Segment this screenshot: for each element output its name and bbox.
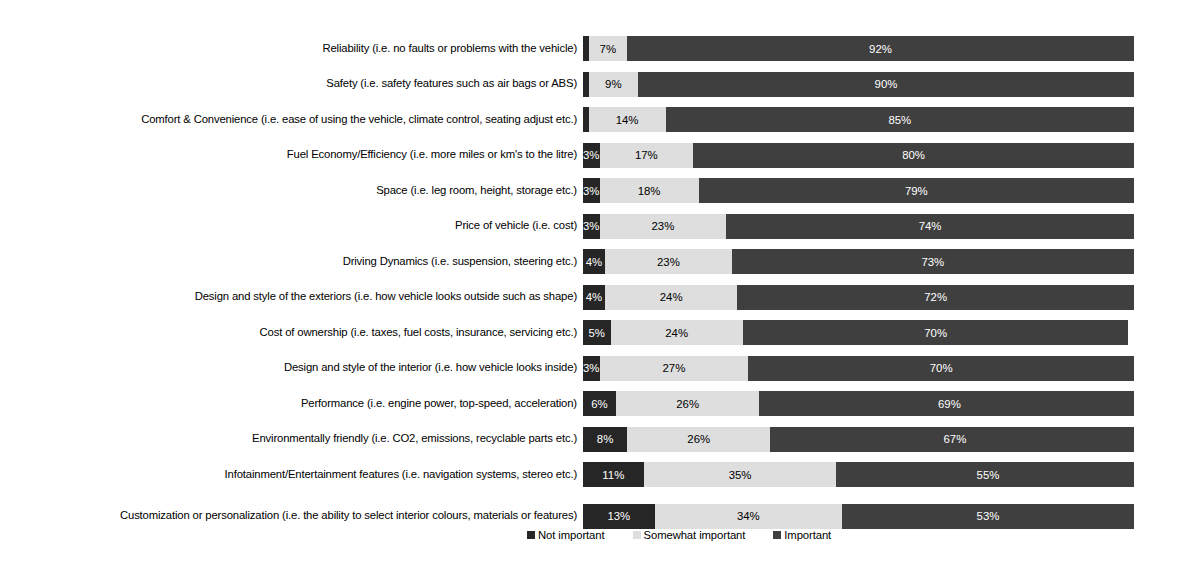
bar-segment-somewhat-important: 35% bbox=[644, 462, 837, 487]
chart-row: Safety (i.e. safety features such as air… bbox=[0, 67, 1177, 103]
bar-segment-value: 70% bbox=[930, 362, 953, 374]
bar-segment-not-important: 4% bbox=[583, 249, 605, 274]
legend-item[interactable]: Somewhat important bbox=[633, 529, 746, 541]
bar-segment-value: 79% bbox=[905, 185, 928, 197]
bar-segment-not-important: 8% bbox=[583, 427, 627, 452]
category-label: Customization or personalization (i.e. t… bbox=[0, 509, 583, 523]
category-label: Price of vehicle (i.e. cost) bbox=[0, 219, 583, 233]
category-label: Space (i.e. leg room, height, storage et… bbox=[0, 184, 583, 198]
category-label: Reliability (i.e. no faults or problems … bbox=[0, 42, 583, 56]
bar-segment-not-important: 3% bbox=[583, 178, 600, 203]
bar-segment-value: 13% bbox=[607, 510, 630, 522]
bar-segment-value: 17% bbox=[635, 149, 658, 161]
bar-track: 5%24%70% bbox=[583, 320, 1134, 345]
bar-segment-somewhat-important: 26% bbox=[627, 427, 770, 452]
bar-segment-value: 26% bbox=[687, 433, 710, 445]
bar-track: 3%18%79% bbox=[583, 178, 1134, 203]
bar-segment-important: 70% bbox=[748, 356, 1134, 381]
bar-segment-not-important: 6% bbox=[583, 391, 616, 416]
bar-segment-not-important: 3% bbox=[583, 356, 600, 381]
chart-row: Space (i.e. leg room, height, storage et… bbox=[0, 173, 1177, 209]
bar-segment-value: 8% bbox=[597, 433, 613, 445]
bar-segment-somewhat-important: 17% bbox=[600, 143, 694, 168]
bar-segment-somewhat-important: 9% bbox=[589, 72, 639, 97]
bar-segment-important: 55% bbox=[836, 462, 1134, 487]
chart-row: Environmentally friendly (i.e. CO2, emis… bbox=[0, 422, 1177, 458]
chart-row: Design and style of the exteriors (i.e. … bbox=[0, 280, 1177, 316]
bar-track: 3%17%80% bbox=[583, 143, 1134, 168]
bar-segment-not-important: 3% bbox=[583, 143, 600, 168]
legend-swatch-icon bbox=[527, 531, 535, 539]
bar-segment-value: 4% bbox=[586, 291, 602, 303]
bar-track: 9%90% bbox=[583, 72, 1134, 97]
bar-segment-important: 85% bbox=[666, 107, 1134, 132]
bar-segment-value: 74% bbox=[919, 220, 942, 232]
bar-segment-important: 53% bbox=[842, 504, 1134, 529]
category-label: Design and style of the exteriors (i.e. … bbox=[0, 290, 583, 304]
chart-row: Reliability (i.e. no faults or problems … bbox=[0, 31, 1177, 67]
category-label: Cost of ownership (i.e. taxes, fuel cost… bbox=[0, 326, 583, 340]
legend-item[interactable]: Not important bbox=[527, 529, 605, 541]
bar-segment-somewhat-important: 7% bbox=[589, 36, 628, 61]
bar-segment-value: 67% bbox=[944, 433, 967, 445]
chart-row: Cost of ownership (i.e. taxes, fuel cost… bbox=[0, 315, 1177, 351]
stacked-bar-chart: Reliability (i.e. no faults or problems … bbox=[0, 0, 1177, 581]
bar-segment-important: 92% bbox=[627, 36, 1134, 61]
chart-plot-area: Reliability (i.e. no faults or problems … bbox=[0, 31, 1177, 540]
bar-segment-value: 3% bbox=[583, 185, 599, 197]
category-label: Performance (i.e. engine power, top-spee… bbox=[0, 397, 583, 411]
bar-segment-value: 24% bbox=[665, 327, 688, 339]
bar-segment-value: 3% bbox=[583, 220, 599, 232]
bar-segment-value: 80% bbox=[902, 149, 925, 161]
legend-swatch-icon bbox=[773, 531, 781, 539]
bar-segment-value: 90% bbox=[875, 78, 898, 90]
bar-segment-value: 23% bbox=[651, 220, 674, 232]
category-label: Safety (i.e. safety features such as air… bbox=[0, 77, 583, 91]
bar-segment-value: 18% bbox=[638, 185, 661, 197]
category-label: Environmentally friendly (i.e. CO2, emis… bbox=[0, 432, 583, 446]
bar-track: 14%85% bbox=[583, 107, 1134, 132]
bar-track: 7%92% bbox=[583, 36, 1134, 61]
bar-segment-value: 26% bbox=[676, 398, 699, 410]
chart-row: Fuel Economy/Efficiency (i.e. more miles… bbox=[0, 138, 1177, 174]
chart-row: Comfort & Convenience (i.e. ease of usin… bbox=[0, 102, 1177, 138]
category-label: Driving Dynamics (i.e. suspension, steer… bbox=[0, 255, 583, 269]
legend-label: Not important bbox=[538, 529, 605, 541]
category-label: Fuel Economy/Efficiency (i.e. more miles… bbox=[0, 148, 583, 162]
category-label: Infotainment/Entertainment features (i.e… bbox=[0, 468, 583, 482]
bar-segment-not-important: 11% bbox=[583, 462, 644, 487]
legend-label: Somewhat important bbox=[644, 529, 746, 541]
bar-segment-somewhat-important: 18% bbox=[600, 178, 699, 203]
bar-segment-value: 6% bbox=[591, 398, 607, 410]
bar-segment-somewhat-important: 24% bbox=[605, 285, 737, 310]
bar-segment-important: 72% bbox=[737, 285, 1134, 310]
bar-segment-not-important: 4% bbox=[583, 285, 605, 310]
bar-track: 11%35%55% bbox=[583, 462, 1134, 487]
bar-segment-somewhat-important: 26% bbox=[616, 391, 759, 416]
bar-segment-value: 3% bbox=[583, 362, 599, 374]
bar-segment-value: 27% bbox=[662, 362, 685, 374]
chart-row: Design and style of the interior (i.e. h… bbox=[0, 351, 1177, 387]
bar-segment-value: 5% bbox=[589, 327, 605, 339]
chart-row: Price of vehicle (i.e. cost)3%23%74% bbox=[0, 209, 1177, 245]
bar-segment-somewhat-important: 14% bbox=[589, 107, 666, 132]
bar-segment-important: 74% bbox=[726, 214, 1134, 239]
bar-segment-value: 24% bbox=[660, 291, 683, 303]
bar-track: 6%26%69% bbox=[583, 391, 1134, 416]
bar-segment-value: 85% bbox=[888, 114, 911, 126]
bar-segment-not-important: 13% bbox=[583, 504, 655, 529]
bar-segment-somewhat-important: 23% bbox=[605, 249, 732, 274]
legend-item[interactable]: Important bbox=[773, 529, 831, 541]
bar-track: 8%26%67% bbox=[583, 427, 1134, 452]
bar-segment-somewhat-important: 23% bbox=[600, 214, 727, 239]
bar-segment-value: 92% bbox=[869, 43, 892, 55]
bar-segment-value: 55% bbox=[977, 469, 1000, 481]
bar-segment-value: 9% bbox=[605, 78, 621, 90]
bar-segment-important: 79% bbox=[699, 178, 1134, 203]
bar-segment-value: 11% bbox=[602, 469, 624, 481]
bar-track: 3%23%74% bbox=[583, 214, 1134, 239]
bar-segment-value: 34% bbox=[737, 510, 760, 522]
bar-segment-value: 7% bbox=[600, 43, 616, 55]
bar-segment-somewhat-important: 24% bbox=[611, 320, 743, 345]
legend-label: Important bbox=[784, 529, 831, 541]
